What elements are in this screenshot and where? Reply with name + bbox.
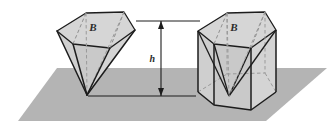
height-arrowhead-up [158, 21, 164, 29]
ground-plane [18, 68, 327, 121]
height-label: h [149, 53, 155, 64]
figure-canvas: B h [0, 0, 327, 128]
ground-plane-group [18, 68, 327, 121]
right-prism-group: B [198, 12, 276, 110]
left-base-area-label: B [88, 21, 96, 33]
geometry-figure: B h [0, 0, 327, 128]
right-base-area-label: B [229, 21, 237, 33]
